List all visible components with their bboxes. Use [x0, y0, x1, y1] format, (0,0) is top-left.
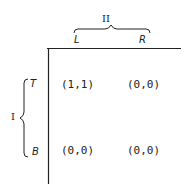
column-strategy-r: R	[139, 34, 146, 46]
payoff-cell-b-r: (0,0)	[127, 145, 160, 157]
row-strategy-t: T	[30, 78, 36, 90]
payoff-cell-b-l: (0,0)	[61, 145, 94, 157]
row-player-label: I	[11, 111, 15, 123]
payoff-cell-t-r: (0,0)	[127, 79, 160, 91]
matrix-lines	[0, 0, 189, 191]
payoff-cell-t-l: (1,1)	[61, 79, 94, 91]
row-strategy-b: B	[32, 146, 39, 158]
row-brace-icon	[20, 79, 28, 157]
column-brace-icon	[74, 25, 150, 33]
column-strategy-l: L	[74, 34, 80, 46]
payoff-matrix-diagram: II L R I T B (1,1) (0,0) (0,0) (0,0)	[0, 0, 189, 191]
column-player-label: II	[102, 13, 110, 25]
